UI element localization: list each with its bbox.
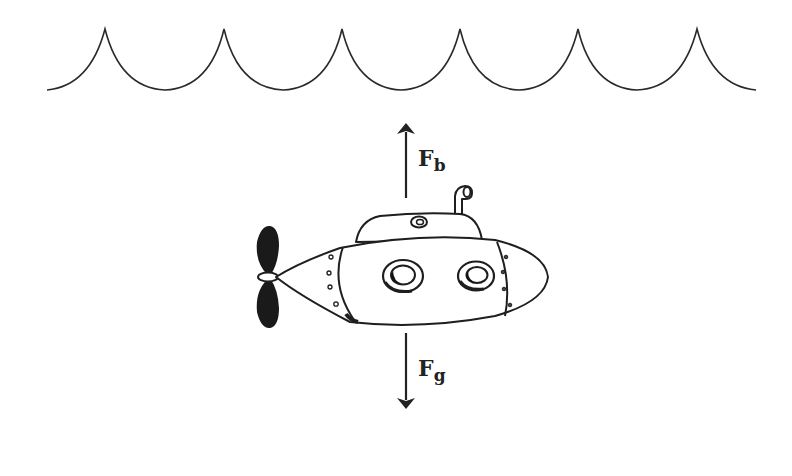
- buoyant-force-label: Fb: [418, 145, 446, 175]
- water-surface-waves: [47, 29, 756, 90]
- porthole-right: [458, 262, 494, 291]
- propeller-icon: [258, 227, 278, 327]
- gravity-force-arrow: [397, 333, 415, 409]
- porthole-left: [383, 260, 423, 292]
- periscope-icon: [455, 186, 472, 214]
- buoyant-force-arrow: [397, 123, 415, 198]
- gravity-force-label: Fg: [418, 355, 446, 385]
- submarine: [258, 186, 548, 327]
- submarine-force-diagram: Fb Fg: [0, 0, 792, 476]
